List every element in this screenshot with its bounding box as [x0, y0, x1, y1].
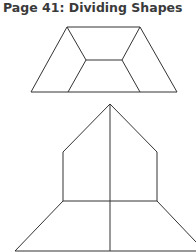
- shapes-figure: [0, 0, 196, 252]
- trapezoid-shape: [31, 27, 177, 92]
- house-shape: [15, 104, 196, 251]
